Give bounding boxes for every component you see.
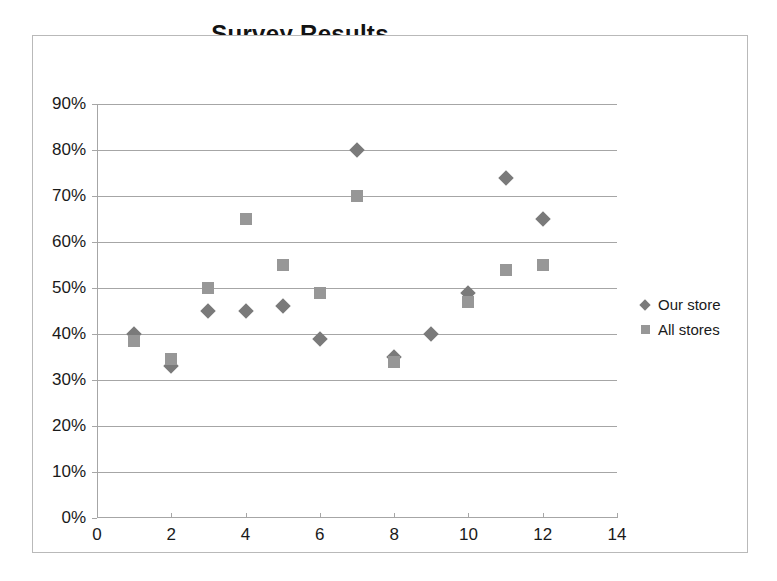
diamond-marker-icon (638, 301, 652, 309)
y-tick (92, 196, 97, 197)
x-tick (543, 513, 544, 518)
chart-legend: Our storeAll stores (638, 292, 721, 342)
data-point (388, 356, 400, 368)
gridline (97, 380, 617, 381)
legend-item-diamond: Our store (638, 292, 721, 317)
data-point (128, 335, 140, 347)
y-tick (92, 104, 97, 105)
data-point (498, 170, 514, 186)
plot-area: 0%10%20%30%40%50%60%70%80%90% 0246810121… (97, 104, 617, 518)
y-tick (92, 472, 97, 473)
x-tick (320, 513, 321, 518)
y-tick (92, 288, 97, 289)
y-tick (92, 334, 97, 335)
data-point (462, 296, 474, 308)
x-tick (468, 513, 469, 518)
gridline (97, 472, 617, 473)
data-point (314, 287, 326, 299)
y-axis-label: 30% (52, 370, 86, 390)
y-axis-label: 90% (52, 94, 86, 114)
chart-page: Survey Results 0%10%20%30%40%50%60%70%80… (0, 0, 777, 581)
data-point (165, 353, 177, 365)
data-point (424, 326, 440, 342)
data-point (535, 211, 551, 227)
square-marker-icon (638, 325, 652, 334)
x-tick (246, 513, 247, 518)
gridline (97, 288, 617, 289)
y-axis-label: 0% (61, 508, 86, 528)
data-point (351, 190, 363, 202)
data-point (202, 282, 214, 294)
y-tick (92, 242, 97, 243)
x-axis-label: 0 (92, 525, 101, 545)
x-axis-label: 2 (167, 525, 176, 545)
gridline (97, 104, 617, 105)
x-tick (617, 513, 618, 518)
x-axis-label: 6 (315, 525, 324, 545)
x-tick (171, 513, 172, 518)
y-axis-label: 50% (52, 278, 86, 298)
y-axis-label: 10% (52, 462, 86, 482)
y-tick (92, 518, 97, 519)
x-axis-label: 4 (241, 525, 250, 545)
legend-item-label: Our store (658, 296, 721, 313)
x-axis-label: 8 (389, 525, 398, 545)
data-point (349, 142, 365, 158)
y-axis-label: 70% (52, 186, 86, 206)
data-point (537, 259, 549, 271)
y-tick (92, 380, 97, 381)
y-axis-label: 60% (52, 232, 86, 252)
y-axis-label: 20% (52, 416, 86, 436)
x-tick (97, 513, 98, 518)
data-point (500, 264, 512, 276)
data-point (275, 299, 291, 315)
data-point (277, 259, 289, 271)
y-axis (97, 104, 98, 518)
data-point (201, 303, 217, 319)
gridline (97, 426, 617, 427)
x-axis-label: 14 (608, 525, 627, 545)
y-tick (92, 426, 97, 427)
y-tick (92, 150, 97, 151)
legend-item-square: All stores (638, 317, 721, 342)
x-axis-label: 12 (533, 525, 552, 545)
y-axis-label: 80% (52, 140, 86, 160)
x-tick (394, 513, 395, 518)
x-axis (97, 517, 617, 518)
gridline (97, 334, 617, 335)
data-point (240, 213, 252, 225)
data-point (238, 303, 254, 319)
x-axis-label: 10 (459, 525, 478, 545)
y-axis-label: 40% (52, 324, 86, 344)
legend-item-label: All stores (658, 321, 720, 338)
gridline (97, 242, 617, 243)
